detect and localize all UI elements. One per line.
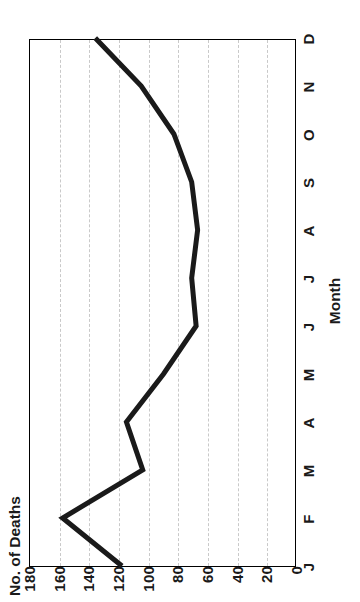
x-axis-tick-label: A — [300, 417, 317, 428]
x-axis-tick-label: O — [300, 129, 317, 141]
x-axis-tick-label: A — [300, 225, 317, 236]
y-axis-tick-label: 180 — [21, 566, 38, 592]
y-axis-tick-label: 20 — [258, 566, 275, 583]
y-axis-tick-label: 40 — [228, 566, 245, 583]
x-axis-tick-label: M — [300, 465, 317, 478]
x-axis-tick-label: J — [300, 563, 317, 572]
x-axis-tick-label: N — [300, 81, 317, 92]
rotated-figure-container: No. of Deaths 020406080100120140160180 J… — [0, 0, 360, 602]
data-line-no-of-deaths — [63, 38, 198, 566]
x-axis-tick-label: S — [300, 178, 317, 188]
x-axis-tick-label: J — [300, 275, 317, 284]
x-axis-title: Month — [326, 0, 344, 602]
y-axis-tick-label: 60 — [199, 566, 216, 583]
y-axis-tick-label: 100 — [139, 566, 156, 592]
data-series-group — [30, 38, 297, 566]
plot-area — [29, 39, 296, 567]
line-chart-figure: No. of Deaths 020406080100120140160180 J… — [0, 0, 360, 602]
y-axis-tick-label: 140 — [80, 566, 97, 592]
x-axis-tick-label: M — [300, 369, 317, 382]
y-axis-tick-label: 80 — [169, 566, 186, 583]
y-axis-tick-label: 120 — [110, 566, 127, 592]
x-axis-tick-label: D — [300, 33, 317, 44]
y-axis-tick-label: 160 — [50, 566, 67, 592]
x-axis-tick-label: J — [300, 323, 317, 332]
x-axis-tick-label: F — [300, 514, 317, 523]
